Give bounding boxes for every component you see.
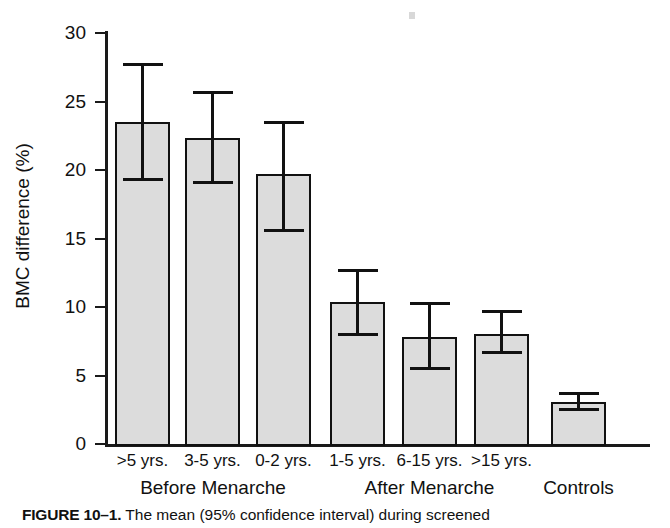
error-bar-cap-lower (559, 408, 599, 411)
y-axis-tick-label: 5 (46, 366, 86, 385)
x-axis-category-label: >15 yrs. (447, 452, 557, 469)
figure-container: BMC difference (%) 051015202530 >5 yrs.3… (0, 0, 670, 528)
figure-caption-label: FIGURE 10–1. (22, 506, 121, 523)
error-bar (330, 269, 385, 336)
error-bar (185, 91, 240, 184)
error-bar (256, 121, 311, 232)
figure-caption-text: The mean (95% confidence interval) durin… (125, 506, 489, 523)
y-axis-tick-label: 15 (46, 229, 86, 248)
y-axis-tick-label: 30 (46, 23, 86, 42)
scan-artifact (409, 12, 415, 19)
y-axis-tick (95, 32, 106, 34)
error-bar-cap-lower (193, 181, 233, 184)
bar (185, 138, 240, 446)
y-axis-tick-label: 25 (46, 92, 86, 111)
error-bar (115, 63, 170, 181)
error-bar (402, 302, 457, 371)
error-bar (551, 392, 606, 411)
error-bar-cap-upper (193, 91, 233, 94)
y-axis-tick-label: 20 (46, 160, 86, 179)
error-bar-stem (356, 269, 359, 336)
error-bar-stem (282, 121, 285, 232)
y-axis-tick-label: 0 (46, 434, 86, 453)
y-axis-tick (95, 101, 106, 103)
y-axis-title: BMC difference (%) (12, 61, 34, 391)
error-bar (474, 310, 529, 354)
error-bar-cap-lower (482, 351, 522, 354)
error-bar-cap-upper (123, 63, 163, 66)
y-axis-tick (95, 238, 106, 240)
error-bar-stem (500, 310, 503, 354)
x-axis-group-label: Controls (469, 478, 670, 497)
error-bar-cap-upper (559, 392, 599, 395)
x-axis-group-label: Before Menarche (103, 478, 323, 497)
error-bar-cap-lower (123, 178, 163, 181)
error-bar-cap-upper (482, 310, 522, 313)
error-bar-cap-upper (410, 302, 450, 305)
figure-caption: FIGURE 10–1. The mean (95% confidence in… (22, 505, 658, 528)
error-bar-stem (211, 91, 214, 184)
y-axis-tick (95, 375, 106, 377)
error-bar-cap-lower (338, 333, 378, 336)
error-bar-cap-upper (338, 269, 378, 272)
error-bar-cap-upper (264, 121, 304, 124)
error-bar-cap-lower (410, 367, 450, 370)
y-axis-tick-label: 10 (46, 297, 86, 316)
error-bar-stem (428, 302, 431, 371)
y-axis-tick (95, 169, 106, 171)
error-bar-cap-lower (264, 229, 304, 232)
y-axis-tick (95, 443, 106, 445)
error-bar-stem (141, 63, 144, 181)
y-axis-tick (95, 306, 106, 308)
